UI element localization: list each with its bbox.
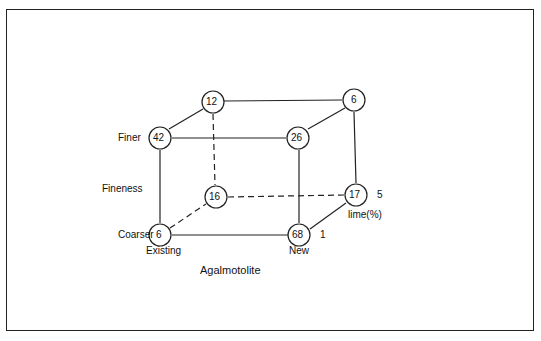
- edge-bottom-left-depth-hidden: [170, 204, 206, 228]
- label-new: New: [289, 245, 309, 256]
- edge-back-bottom-hidden: [228, 195, 344, 197]
- node-value: 12: [206, 96, 217, 107]
- label-lime: lime(%): [348, 209, 382, 220]
- node-value: 68: [292, 229, 303, 240]
- edge-back-right: [354, 112, 356, 183]
- node-value: 6: [351, 94, 357, 105]
- node-value: 16: [209, 191, 220, 202]
- label-lime-low: 1: [320, 229, 326, 240]
- label-finer: Finer: [118, 132, 141, 143]
- label-fineness: Fineness: [102, 183, 143, 194]
- node-value: 6: [156, 229, 162, 240]
- edge-top-right-depth: [308, 108, 345, 129]
- node-value: 42: [153, 132, 164, 143]
- edge-top-left-depth: [169, 109, 203, 129]
- node-value: 26: [291, 132, 302, 143]
- label-agalmotolite: Agalmotolite: [200, 264, 261, 276]
- label-lime-high: 5: [377, 189, 383, 200]
- label-coarser: Coarser: [118, 229, 154, 240]
- edge-back-top: [224, 100, 342, 101]
- cube-diagram: [0, 0, 541, 341]
- edge-bottom-right-depth: [310, 203, 346, 229]
- edge-back-left-hidden: [213, 114, 215, 185]
- label-existing: Existing: [146, 245, 181, 256]
- node-value: 17: [349, 189, 360, 200]
